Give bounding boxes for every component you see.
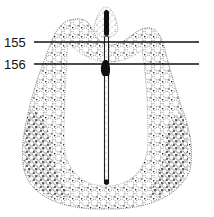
central-rod-tip (104, 179, 109, 185)
central-rod (105, 36, 109, 184)
label-156: 156 (4, 58, 26, 71)
cross-section-illustration (0, 0, 214, 217)
label-155: 155 (4, 36, 26, 49)
central-rod-top (104, 10, 109, 36)
